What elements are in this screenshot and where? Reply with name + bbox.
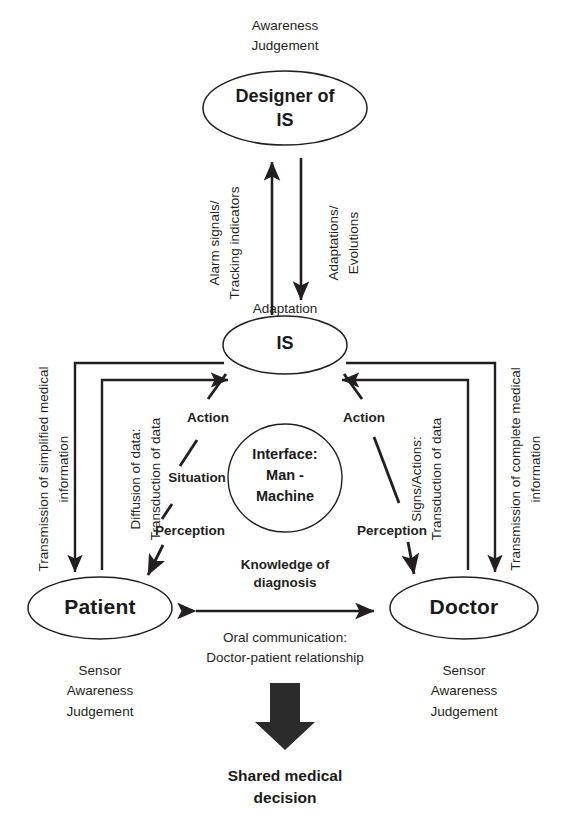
knowledge-of-diagnosis-label: Knowledge of diagnosis [213,556,357,592]
diagonal-left-seg1 [208,374,226,399]
block-arrow-shared-decision [255,683,315,750]
alarm-signals-label: Alarm signals/ Tracking indicators [205,168,245,318]
doctor-node-label: Doctor [399,595,529,619]
adaptation-label: Adaptation [225,300,345,317]
signs-actions-label: Signs/Actions: Transduction of data [407,379,447,579]
perception-right-label: Perception [344,522,440,539]
transmission-complete-label: Transmission of complete medical informa… [506,349,546,589]
diagonal-right-seg1 [344,374,362,399]
designer-top-annotation: Awareness Judgement [225,16,345,57]
doctor-attributes-label: Sensor Awareness Judgement [406,661,522,722]
diagonal-right-seg2 [374,437,399,503]
is-node-label: IS [245,333,325,354]
perception-left-label: Perception [142,522,238,539]
oral-communication-label: Oral communication: Doctor-patient relat… [180,628,390,667]
action-right-label: Action [324,409,404,426]
situation-left-label: Situation [152,469,242,486]
action-left-label: Action [168,409,248,426]
designer-node-label: Designer of IS [205,84,365,133]
transmission-simplified-label: Transmission of simplified medical infor… [34,349,74,589]
patient-node-label: Patient [35,595,165,619]
diagram-canvas: Awareness Judgement Designer of IS Alarm… [0,0,569,838]
interface-node-label: Interface: Man - Machine [230,444,340,507]
adaptations-evolutions-label: Adaptations/ Evolutions [324,168,364,318]
shared-decision-label: Shared medical decision [195,765,375,810]
diagonal-left-seg2 [180,440,197,466]
patient-attributes-label: Sensor Awareness Judgement [42,661,158,722]
